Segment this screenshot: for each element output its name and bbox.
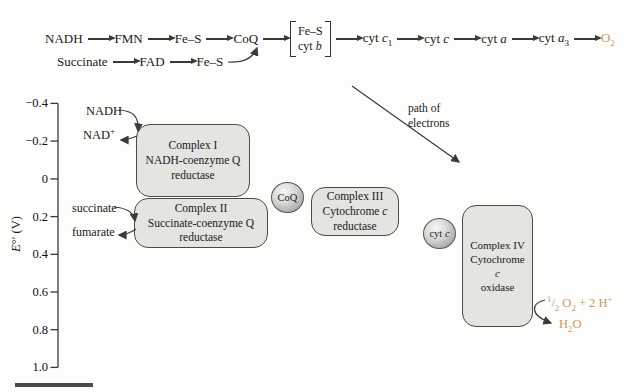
e-axis <box>51 103 59 367</box>
chain-node: Succinate <box>57 54 108 70</box>
chain-node: FMN <box>115 31 143 47</box>
box-label-line: Complex IV <box>470 238 525 252</box>
nad-out-arrow <box>121 136 137 140</box>
coq-label: CoQ <box>278 192 298 203</box>
cyt-c-carrier-ball: cyt c <box>423 218 456 249</box>
nadh-label: NADH <box>86 104 122 119</box>
chain-node: Fe–S <box>175 31 202 47</box>
right-arrow-icon <box>170 61 192 62</box>
box-label-line: Succinate-coenzyme Q <box>148 216 254 231</box>
right-arrow-icon <box>88 38 110 39</box>
path-of-electrons-line1: path of <box>408 101 450 116</box>
electron-transport-chain-diagram: NADHFMNFe–SCoQFe–Scyt bcyt c1cyt ccyt ac… <box>0 0 631 392</box>
axis-tick-label: 0.6 <box>14 285 48 299</box>
axis-tick-label: 0 <box>14 172 48 186</box>
fumarate-label: fumarate <box>72 225 115 240</box>
right-arrow-icon <box>263 38 285 39</box>
chain-node: cyt a <box>481 31 507 47</box>
chain-node: cyt a3 <box>539 30 569 48</box>
box-label-line: reductase <box>333 219 376 234</box>
h2o-label: H2O <box>559 317 581 334</box>
box-label-line: Complex I <box>169 138 218 153</box>
cyt-c-label: cyt c <box>429 228 449 239</box>
right-arrow-icon <box>148 38 170 39</box>
bracket-line: Fe–S <box>298 24 323 39</box>
chain-row-1: NADHFMNFe–SCoQFe–Scyt bcyt c1cyt ccyt ac… <box>45 19 615 59</box>
axis-title: E°′ (V) <box>9 216 24 252</box>
box-label-line: NADH-coenzyme Q <box>146 153 241 168</box>
right-arrow-icon <box>336 38 358 39</box>
right-arrow-icon <box>113 61 135 62</box>
complex-1-box: Complex INADH-coenzyme Qreductase <box>136 124 250 197</box>
coq-carrier-ball: CoQ <box>271 182 304 213</box>
succinate-label: succinate <box>72 201 117 216</box>
box-label-line: Complex III <box>327 189 384 204</box>
right-arrow-icon <box>454 38 476 39</box>
right-arrow-icon <box>206 38 228 39</box>
complex-3-box: Complex IIICytochrome creductase <box>311 187 399 236</box>
right-arrow-icon <box>574 38 596 39</box>
path-of-electrons-line2: electrons <box>408 116 450 131</box>
bracket-line: cyt b <box>298 39 322 54</box>
box-label-line: reductase <box>171 168 214 183</box>
right-arrow-icon <box>512 38 534 39</box>
chain-row-2: SuccinateFADFe–S <box>57 54 223 70</box>
axis-tick-label: −0.2 <box>14 134 48 148</box>
axis-tick-label: 0.8 <box>14 323 48 337</box>
chain-node: CoQ <box>233 31 258 47</box>
box-label-line: reductase <box>179 230 222 245</box>
chain-node: NADH <box>45 31 83 47</box>
nad-plus-label: NAD+ <box>83 126 115 143</box>
fes-cytb-bracket: Fe–Scyt b <box>290 21 331 57</box>
box-label-line: Complex II <box>175 201 228 216</box>
box-label-line: Cytochrome c <box>467 252 528 280</box>
bottom-scale-bar <box>15 383 93 387</box>
box-label-line: oxidase <box>481 280 515 294</box>
box-label-line: Cytochrome c <box>323 204 388 219</box>
right-arrow-icon <box>397 38 419 39</box>
path-of-electrons-label: path of electrons <box>408 101 450 131</box>
chain-node: O2 <box>601 30 615 48</box>
axis-tick-label: −0.4 <box>14 96 48 110</box>
chain-node: cyt c <box>424 31 449 47</box>
chain-node: Fe–S <box>197 54 224 70</box>
o2-reduction-label: 1/2 O2 + 2 H+ <box>547 294 612 313</box>
chain-node: cyt c1 <box>363 30 392 48</box>
succinate-in-arrow <box>114 207 135 221</box>
complex-4-box: Complex IVCytochrome coxidase <box>462 205 533 327</box>
complex-2-box: Complex IISuccinate-coenzyme Qreductase <box>134 198 268 248</box>
chain-node: FAD <box>140 54 165 70</box>
axis-tick-label: 1.0 <box>14 360 48 374</box>
